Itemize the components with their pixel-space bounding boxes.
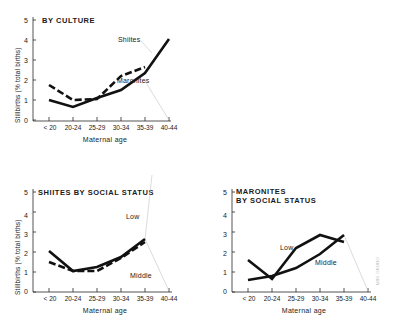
series-line-middle: [248, 235, 344, 280]
chart-panel-by-culture: BY CULTURE Stillbirths (% total births) …: [0, 0, 200, 160]
x-tick-20-24: 20-24: [61, 124, 85, 131]
x-tick-20-24: 20-24: [61, 295, 85, 302]
series-label-maronites: Maronites: [117, 77, 150, 84]
x-tick-35-39: 35-39: [332, 295, 356, 302]
leader-line-middle: [145, 239, 169, 291]
x-tick-lt20: < 20: [237, 295, 261, 302]
x-tick-40-44: 40-44: [157, 124, 181, 131]
x-axis-label-by-culture: Maternal age: [60, 136, 150, 143]
x-tick-lt20: < 20: [38, 124, 62, 131]
plot-area-maronites: [195, 175, 394, 326]
series-label-middle: Middle: [130, 272, 152, 279]
x-axis-label-shiites: Maternal age: [60, 307, 150, 314]
x-tick-40-44: 40-44: [356, 295, 380, 302]
x-axis-label-maronites: Maternal age: [259, 307, 349, 314]
x-tick-25-29: 25-29: [284, 295, 308, 302]
chart-panel-shiites-by-social-status: SHIITES BY SOCIAL STATUS Stillbirths (% …: [0, 175, 200, 326]
x-tick-30-34: 30-34: [308, 295, 332, 302]
x-tick-25-29: 25-29: [85, 124, 109, 131]
x-tick-40-44: 40-44: [157, 295, 181, 302]
plot-area-shiites: [0, 175, 200, 326]
series-label-shiites: Shiites: [118, 36, 140, 43]
leader-line-low: [145, 175, 152, 239]
x-tick-30-34: 30-34: [109, 295, 133, 302]
x-tick-25-29: 25-29: [85, 295, 109, 302]
x-tick-35-39: 35-39: [133, 124, 157, 131]
series-label-middle: Middle: [315, 259, 337, 266]
x-tick-30-34: 30-34: [109, 124, 133, 131]
x-tick-lt20: < 20: [38, 295, 62, 302]
series-line-low: [248, 235, 344, 279]
leader-line-maronites: [145, 81, 169, 120]
chart-panel-maronites-by-social-status: MARONITES BY SOCIAL STATUS 0 1 2 3 4 5 L…: [195, 175, 394, 326]
x-tick-35-39: 35-39: [133, 295, 157, 302]
figure-credit: MIKI OKUNO: [375, 257, 380, 285]
series-label-low: Low: [126, 213, 139, 220]
leader-line-shiites: [141, 41, 152, 53]
series-label-low: Low: [280, 244, 293, 251]
leader-line-low: [344, 235, 368, 291]
x-tick-20-24: 20-24: [260, 295, 284, 302]
